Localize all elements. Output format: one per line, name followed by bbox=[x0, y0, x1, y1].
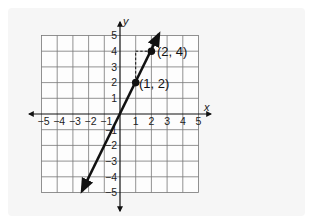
point-2-4 bbox=[148, 47, 156, 55]
svg-text:2: 2 bbox=[148, 115, 154, 127]
svg-text:−5: −5 bbox=[105, 186, 117, 198]
svg-text:2: 2 bbox=[111, 76, 117, 88]
svg-text:−3: −3 bbox=[69, 115, 81, 127]
svg-text:−3: −3 bbox=[105, 155, 117, 167]
svg-text:−5: −5 bbox=[38, 115, 50, 127]
svg-text:3: 3 bbox=[111, 61, 117, 73]
svg-text:4: 4 bbox=[111, 45, 117, 57]
svg-text:−4: −4 bbox=[53, 115, 65, 127]
svg-text:−2: −2 bbox=[85, 115, 97, 127]
svg-text:1: 1 bbox=[133, 115, 139, 127]
svg-text:5: 5 bbox=[196, 115, 202, 127]
svg-text:3: 3 bbox=[164, 115, 170, 127]
coordinate-plane: x y −5 −4 −3 −2 −1 1 2 3 4 5 5 4 3 2 1 −… bbox=[0, 0, 313, 224]
svg-text:5: 5 bbox=[111, 29, 117, 41]
x-axis-label: x bbox=[203, 101, 210, 113]
point-2-4-label: (2, 4) bbox=[157, 44, 187, 59]
svg-text:−4: −4 bbox=[105, 171, 117, 183]
svg-text:1: 1 bbox=[111, 92, 117, 104]
y-axis-label: y bbox=[122, 15, 130, 27]
point-1-2-label: (1, 2) bbox=[139, 76, 169, 91]
svg-text:4: 4 bbox=[180, 115, 186, 127]
